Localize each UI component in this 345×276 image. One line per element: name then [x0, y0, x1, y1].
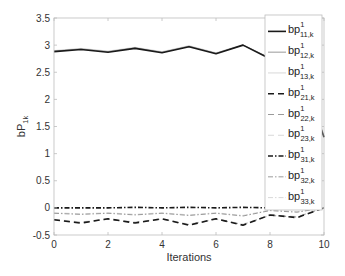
y-axis-label: bP1k [15, 116, 30, 138]
x-tick-label: 6 [213, 239, 219, 250]
y-tick-label: 2 [44, 94, 50, 105]
y-tick-label: 2.5 [36, 67, 50, 78]
x-tick-label: 4 [159, 239, 165, 250]
x-axis-label: Iterations [166, 251, 212, 263]
y-axis-label-main: bP [15, 124, 27, 137]
y-tick-label: 3.5 [36, 13, 50, 24]
y-tick-label: 0 [44, 202, 50, 213]
y-tick-label: 1.5 [36, 121, 50, 132]
x-axis-tick-labels: 0246810 [51, 239, 330, 250]
x-tick-label: 0 [51, 239, 57, 250]
y-tick-label: 3 [44, 40, 50, 51]
y-axis-label-subscript: 1k [21, 116, 30, 124]
x-tick-label: 10 [318, 239, 330, 250]
y-axis-tick-labels: -0.500.511.522.533.5 [33, 13, 51, 241]
x-tick-label: 2 [105, 239, 111, 250]
x-tick-label: 8 [267, 239, 273, 250]
y-tick-label: 1 [44, 148, 50, 159]
y-tick-label: 0.5 [36, 175, 50, 186]
y-tick-label: -0.5 [33, 230, 51, 241]
legend: bp111,kbp112,kbp113,kbp121,kbp122,kbp123… [265, 15, 322, 210]
line-chart: 0246810 -0.500.511.522.533.5 Iterations … [0, 0, 345, 276]
